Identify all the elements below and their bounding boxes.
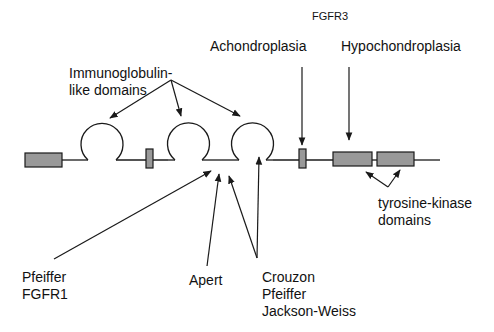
tyrosine-kinase-arrows	[366, 170, 400, 187]
crouzon-arrow-1	[229, 176, 257, 258]
pfeiffer-fgfr1-arrow	[54, 171, 211, 259]
ig-domain-loop-1	[81, 123, 123, 160]
diagram-title: FGFR3	[312, 10, 348, 23]
ig-domain-loop-2	[168, 123, 210, 160]
apert-arrow	[207, 174, 219, 266]
tyrosine-kinase-box-2	[377, 152, 414, 166]
pfeiffer-fgfr1-label: Pfeiffer FGFR1	[22, 269, 68, 303]
ig-domains-label: Immunoglobulin- like domains	[69, 65, 173, 99]
tyrosine-kinase-label: tyrosine-kinase domains	[378, 195, 472, 229]
transmembrane-box	[299, 149, 306, 168]
signal-peptide-box	[25, 153, 62, 167]
achondroplasia-label: Achondroplasia	[210, 38, 307, 55]
fgfr-receptor-diagram: FGFR3 Immunoglobulin- like domains Achon…	[0, 0, 494, 332]
apert-label: Apert	[189, 272, 222, 289]
hypochondroplasia-label: Hypochondroplasia	[341, 38, 461, 55]
crouzon-pfeiffer-jackson-weiss-label: Crouzon Pfeiffer Jackson-Weiss	[262, 269, 356, 320]
tyrosine-kinase-box-1	[333, 152, 372, 166]
crouzon-arrow-2	[257, 157, 259, 258]
ig-domain-loop-3	[231, 123, 273, 160]
acid-box	[146, 149, 153, 168]
